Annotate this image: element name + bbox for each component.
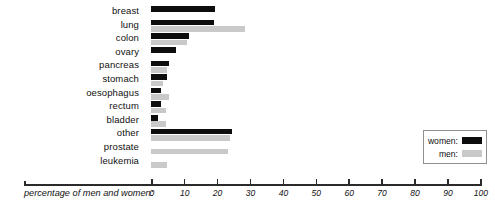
category-label-colon: colon — [0, 32, 145, 43]
x-tick-label-90: 90 — [443, 188, 452, 198]
category-label-ovary: ovary — [0, 46, 145, 57]
chart-plot-area: breastlungcolonovarypancreasstomachoesop… — [0, 6, 495, 169]
bar-women-ovary — [151, 47, 176, 53]
bar-men-stomach — [151, 81, 163, 87]
category-label-rectum: rectum — [0, 100, 145, 111]
chart-row: leukemia — [0, 156, 495, 170]
x-tick-60 — [348, 179, 350, 185]
bar-men-oesophagus — [151, 94, 169, 100]
x-tick-70 — [381, 179, 383, 185]
bar-women-colon — [151, 33, 189, 39]
x-tick-label-60: 60 — [344, 188, 353, 198]
bar-group — [151, 115, 495, 129]
x-axis-label: percentage of men and women: — [24, 188, 144, 199]
bar-group — [151, 88, 495, 102]
legend-swatch-women — [462, 137, 482, 144]
chart-row: pancreas — [0, 60, 495, 74]
x-tick-0 — [151, 179, 153, 185]
legend-item-men: men: — [428, 147, 482, 160]
bar-women-other — [151, 129, 232, 135]
chart-row: oesophagus — [0, 88, 495, 102]
chart-legend: women: men: — [423, 130, 487, 164]
chart-row: ovary — [0, 47, 495, 61]
x-axis-left-cap — [24, 181, 26, 186]
x-tick-30 — [250, 179, 252, 185]
bar-women-bladder — [151, 115, 158, 121]
bar-group — [151, 6, 495, 20]
category-label-pancreas: pancreas — [0, 59, 145, 70]
category-label-other: other — [0, 127, 145, 138]
bar-women-breast — [151, 6, 215, 12]
x-tick-label-20: 20 — [213, 188, 222, 198]
bar-women-pancreas — [151, 61, 169, 67]
x-tick-50 — [316, 179, 318, 185]
bar-women-rectum — [151, 101, 161, 107]
chart-row: bladder — [0, 115, 495, 129]
x-tick-10 — [184, 179, 186, 185]
x-tick-90 — [447, 179, 449, 185]
x-tick-80 — [414, 179, 416, 185]
x-tick-100 — [480, 179, 482, 185]
category-label-breast: breast — [0, 5, 145, 16]
bar-group — [151, 47, 495, 61]
bar-group — [151, 74, 495, 88]
category-label-oesophagus: oesophagus — [0, 87, 145, 98]
x-tick-label-70: 70 — [377, 188, 386, 198]
chart-row: lung — [0, 20, 495, 34]
category-label-stomach: stomach — [0, 73, 145, 84]
category-label-lung: lung — [0, 19, 145, 30]
legend-label-men: men: — [439, 149, 458, 159]
bar-group — [151, 33, 495, 47]
bar-men-prostate — [151, 149, 228, 155]
x-tick-20 — [217, 179, 219, 185]
bar-group — [151, 101, 495, 115]
bar-women-lung — [151, 20, 214, 26]
bar-chart: breastlungcolonovarypancreasstomachoesop… — [0, 0, 495, 207]
bar-men-leukemia — [151, 162, 167, 168]
category-label-leukemia: leukemia — [0, 155, 145, 166]
category-label-prostate: prostate — [0, 141, 145, 152]
chart-row: rectum — [0, 101, 495, 115]
category-label-bladder: bladder — [0, 114, 145, 125]
x-tick-label-40: 40 — [279, 188, 288, 198]
chart-row: colon — [0, 33, 495, 47]
bar-men-rectum — [151, 108, 166, 114]
x-tick-label-30: 30 — [246, 188, 255, 198]
x-tick-label-80: 80 — [410, 188, 419, 198]
chart-row: prostate — [0, 142, 495, 156]
legend-swatch-men — [462, 150, 482, 157]
bar-men-other — [151, 135, 230, 141]
x-tick-label-100: 100 — [474, 188, 488, 198]
x-tick-40 — [283, 179, 285, 185]
bar-group — [151, 20, 495, 34]
bar-men-colon — [151, 40, 187, 46]
chart-row: other — [0, 128, 495, 142]
bar-women-oesophagus — [151, 88, 161, 94]
chart-row: stomach — [0, 74, 495, 88]
bar-men-lung — [151, 26, 245, 32]
legend-item-women: women: — [428, 134, 482, 147]
bar-group — [151, 60, 495, 74]
x-tick-label-10: 10 — [180, 188, 189, 198]
legend-label-women: women: — [428, 136, 458, 146]
chart-row: breast — [0, 6, 495, 20]
bar-women-stomach — [151, 74, 167, 80]
x-tick-label-50: 50 — [312, 188, 321, 198]
bar-men-pancreas — [151, 67, 167, 73]
bar-men-bladder — [151, 121, 166, 127]
